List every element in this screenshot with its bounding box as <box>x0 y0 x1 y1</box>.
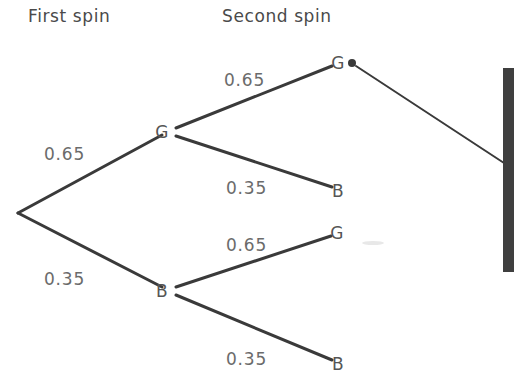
node-second-spin-gg: G <box>331 53 345 73</box>
heading-first-spin: First spin <box>28 6 110 26</box>
node-first-spin-b: B <box>156 281 168 301</box>
branch-root-to-b <box>18 213 162 287</box>
branch-root-to-g <box>18 135 162 213</box>
probability-first-g: 0.65 <box>44 144 85 164</box>
heading-second-spin: Second spin <box>222 6 332 26</box>
probability-second-gg: 0.65 <box>224 70 265 90</box>
scan-smudge <box>362 241 384 245</box>
node-second-spin-bg: G <box>330 223 344 243</box>
page-edge-bar <box>503 68 514 272</box>
probability-tree-diagram: First spin Second spin G B G B G B 0.65 … <box>0 0 516 383</box>
tree-canvas: First spin Second spin G B G B G B 0.65 … <box>0 0 516 383</box>
node-marker-dot <box>348 59 356 67</box>
node-second-spin-bb: B <box>332 354 344 374</box>
probability-first-b: 0.35 <box>44 269 85 289</box>
node-second-spin-gb: B <box>332 181 344 201</box>
probability-second-bg: 0.65 <box>226 235 267 255</box>
node-first-spin-g: G <box>155 122 169 142</box>
probability-second-gb: 0.35 <box>226 178 267 198</box>
probability-second-bb: 0.35 <box>226 349 267 369</box>
branch-trailing-to-edge <box>356 66 504 163</box>
